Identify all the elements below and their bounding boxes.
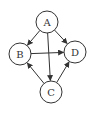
edge-a-to-d [55, 30, 68, 44]
node-label: A [42, 17, 51, 28]
nodes: ABDC [9, 11, 86, 103]
node-b: B [9, 43, 31, 65]
node-c: C [40, 81, 62, 103]
edge-c-to-b [27, 63, 44, 84]
edge-a-to-c [48, 33, 51, 81]
node-d: D [64, 41, 86, 63]
edges [27, 30, 69, 83]
edge-b-to-d [31, 52, 64, 53]
node-a: A [36, 11, 58, 33]
node-label: C [47, 87, 55, 98]
node-label: D [71, 47, 79, 58]
edge-a-to-b [27, 30, 39, 45]
edge-c-to-d [57, 62, 69, 83]
directed-graph: ABDC [0, 0, 97, 113]
node-label: B [16, 49, 23, 60]
